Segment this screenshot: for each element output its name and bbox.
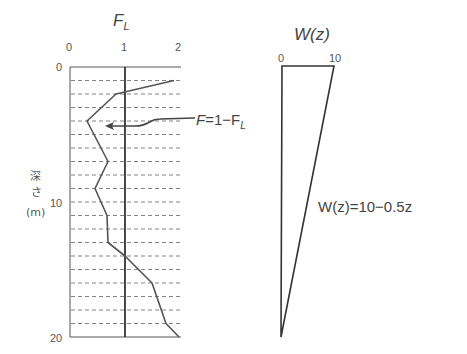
x-tick-0: 0	[66, 41, 72, 53]
y-axis-label-char1: 深	[30, 170, 41, 183]
wz-x-tick-0: 0	[278, 52, 284, 64]
y-axis-label-unit: (m)	[26, 206, 45, 219]
fl-chart-title: FL	[113, 11, 130, 32]
y-tick-10: 10	[50, 197, 62, 209]
y-axis-label-char2: さ	[31, 186, 42, 199]
wz-formula: W(z)=10−0.5z	[318, 198, 412, 215]
diagram-canvas: FL 0 1 2 0 10 20 深 さ (m)	[0, 0, 467, 354]
x-tick-1: 1	[121, 41, 127, 53]
wz-chart: W(z) 0 10 W(z)=10−0.5z	[278, 25, 412, 337]
wz-x-tick-10: 10	[329, 52, 341, 64]
y-tick-0: 0	[56, 61, 62, 73]
fl-chart: FL 0 1 2 0 10 20 深 さ (m)	[26, 11, 246, 344]
depth-grid	[71, 81, 181, 324]
annotation-formula: F=1−FL	[196, 111, 246, 131]
annotation-arrow	[110, 118, 195, 126]
x-tick-2: 2	[175, 41, 181, 53]
y-tick-20: 20	[50, 332, 62, 344]
wz-chart-title: W(z)	[294, 25, 330, 44]
